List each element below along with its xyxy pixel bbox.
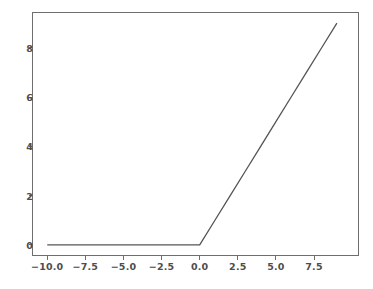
x-tick-mark [47,256,48,260]
x-tick-label: −10.0 [31,261,63,272]
x-tick-label: 0.0 [191,261,208,272]
y-tick-label: 0 [26,239,33,250]
x-tick-label: −2.5 [149,261,175,272]
y-tick-label: 8 [26,42,33,53]
y-tick-label: 2 [26,190,33,201]
plot-line-layer [0,0,373,289]
x-tick-label: 2.5 [229,261,246,272]
figure-canvas: −10.0−7.5−5.0−2.50.02.55.07.5 02468 [0,0,373,289]
x-tick-mark [275,256,276,260]
x-tick-mark [161,256,162,260]
x-tick-mark [237,256,238,260]
line-series-relu [47,23,337,245]
y-tick-label: 4 [26,141,33,152]
x-tick-mark [199,256,200,260]
x-tick-label: −7.5 [73,261,99,272]
x-tick-mark [123,256,124,260]
x-tick-mark [85,256,86,260]
y-tick-label: 6 [26,92,33,103]
x-tick-mark [314,256,315,260]
x-tick-label: 5.0 [267,261,284,272]
x-tick-label: −5.0 [111,261,137,272]
x-tick-label: 7.5 [305,261,322,272]
